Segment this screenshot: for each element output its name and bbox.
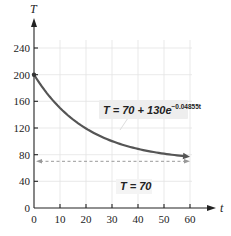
x-axis-arrow-icon	[207, 205, 216, 211]
chart: T t 240 200 160 120 80 40 0 0 10 20 30 4…	[0, 0, 231, 236]
y-axis-arrow-icon	[31, 18, 37, 27]
x-tick-label: 20	[81, 213, 93, 225]
y-axis-label: T	[30, 2, 38, 16]
x-tick-label: 0	[31, 213, 37, 225]
x-axis-label: t	[220, 201, 224, 215]
x-tick-label: 30	[107, 213, 119, 225]
y-tick-label: 160	[14, 95, 31, 107]
asymptote-line	[36, 159, 190, 164]
asymptote-label: T = 70	[120, 180, 152, 192]
curve-arrow-icon	[183, 153, 190, 159]
y-tick-label: 240	[14, 42, 31, 54]
grid	[34, 40, 192, 208]
y-tick-label: 120	[14, 122, 31, 134]
x-tick-label: 10	[55, 213, 67, 225]
x-tick-label: 40	[133, 213, 145, 225]
initial-point	[32, 73, 36, 77]
x-tick-label: 50	[159, 213, 171, 225]
y-tick-label: 80	[19, 149, 31, 161]
y-tick-label: 40	[19, 175, 31, 187]
x-tick-label: 60	[185, 213, 197, 225]
y-tick-label: 0	[25, 202, 31, 214]
y-tick-label: 200	[14, 69, 31, 81]
